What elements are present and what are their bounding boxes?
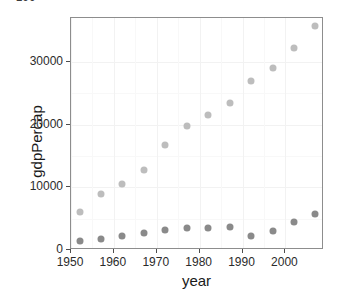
chart-figure: 100 0100002000030000 1950196019701980199… <box>0 0 339 302</box>
x-tick-label: 1990 <box>228 255 255 269</box>
y-tick-mark <box>66 61 70 62</box>
gridline-y-major <box>71 62 322 63</box>
scatter-point <box>119 180 126 187</box>
y-axis-title: gdpPercap <box>28 62 45 222</box>
gridline-y-major <box>71 125 322 126</box>
scatter-point <box>312 211 319 218</box>
gridline-y-minor <box>71 156 322 157</box>
x-tick-label: 2000 <box>271 255 298 269</box>
x-tick-mark <box>156 249 157 253</box>
x-tick-mark <box>284 249 285 253</box>
gridline-x-minor <box>178 18 179 248</box>
scatter-point <box>140 167 147 174</box>
y-tick-mark <box>66 124 70 125</box>
gridline-y-minor <box>71 93 322 94</box>
scatter-point <box>183 122 190 129</box>
scatter-point <box>140 230 147 237</box>
clipped-top-text: 100 <box>16 0 36 1</box>
scatter-point <box>269 227 276 234</box>
scatter-point <box>119 233 126 240</box>
scatter-point <box>248 232 255 239</box>
x-tick-mark <box>70 249 71 253</box>
scatter-point <box>76 209 83 216</box>
scatter-point <box>162 142 169 149</box>
gridline-y-major <box>71 187 322 188</box>
scatter-point <box>183 225 190 232</box>
scatter-point <box>98 191 105 198</box>
gridline-x-minor <box>221 18 222 248</box>
scatter-point <box>290 219 297 226</box>
x-axis-title: year <box>70 272 323 289</box>
gridline-x-major <box>200 18 201 248</box>
gridline-x-major <box>157 18 158 248</box>
scatter-point <box>76 237 83 244</box>
gridline-x-major <box>71 18 72 248</box>
plot-panel <box>70 17 323 249</box>
gridline-x-minor <box>264 18 265 248</box>
y-tick-mark <box>66 186 70 187</box>
gridline-x-minor <box>92 18 93 248</box>
x-tick-mark <box>113 249 114 253</box>
x-tick-mark <box>199 249 200 253</box>
scatter-point <box>226 99 233 106</box>
scatter-point <box>98 235 105 242</box>
gridline-x-major <box>285 18 286 248</box>
gridline-x-major <box>114 18 115 248</box>
scatter-point <box>248 77 255 84</box>
x-tick-label: 1950 <box>57 255 84 269</box>
y-tick-label: 0 <box>56 242 63 256</box>
scatter-point <box>205 112 212 119</box>
x-tick-label: 1960 <box>100 255 127 269</box>
scatter-point <box>269 65 276 72</box>
scatter-point <box>290 45 297 52</box>
scatter-point <box>162 226 169 233</box>
x-tick-label: 1970 <box>142 255 169 269</box>
scatter-point <box>226 224 233 231</box>
gridline-y-minor <box>71 219 322 220</box>
x-tick-mark <box>242 249 243 253</box>
x-tick-label: 1980 <box>185 255 212 269</box>
gridline-x-major <box>243 18 244 248</box>
scatter-point <box>312 22 319 29</box>
scatter-point <box>205 224 212 231</box>
gridline-x-minor <box>135 18 136 248</box>
